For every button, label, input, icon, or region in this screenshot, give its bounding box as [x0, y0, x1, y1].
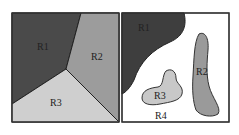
right-label-r3: R3	[154, 90, 166, 101]
right-label-r2: R2	[196, 66, 208, 77]
right-label-r1: R1	[138, 22, 150, 33]
region-diagram: R1 R2 R3 R1 R2 R3 R4	[0, 0, 239, 135]
right-panel: R1 R2 R3 R4	[122, 13, 229, 122]
left-label-r2: R2	[91, 51, 103, 62]
left-panel: R1 R2 R3	[12, 13, 119, 122]
left-label-r3: R3	[50, 97, 62, 108]
right-label-r4: R4	[155, 110, 167, 121]
left-label-r1: R1	[37, 41, 49, 52]
